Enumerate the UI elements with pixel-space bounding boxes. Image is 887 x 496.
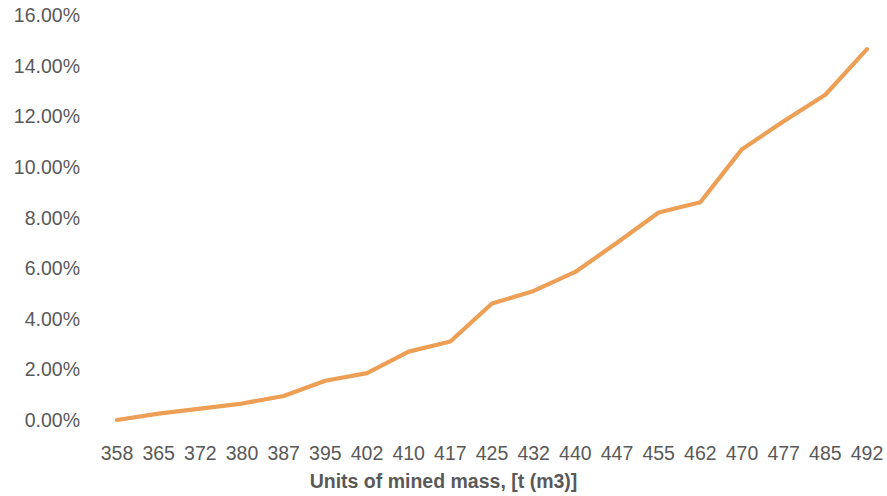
x-axis-tick-label: 410 <box>392 442 425 465</box>
x-axis-tick-label: 462 <box>684 442 717 465</box>
x-axis-tick-label: 380 <box>226 442 259 465</box>
x-axis-tick-label: 477 <box>767 442 800 465</box>
x-axis-tick-label: 455 <box>642 442 675 465</box>
plot-area <box>0 0 887 440</box>
x-axis-title: Units of mined mass, [t (m3)] <box>0 470 887 493</box>
x-axis-tick-label: 358 <box>101 442 134 465</box>
series-line <box>0 0 887 440</box>
x-axis-tick-label: 440 <box>559 442 592 465</box>
x-axis-tick-label: 395 <box>309 442 342 465</box>
x-axis-tick-label: 417 <box>434 442 467 465</box>
x-axis-tick-label: 432 <box>517 442 550 465</box>
x-axis-tick-label: 372 <box>184 442 217 465</box>
line-chart: 16.00%14.00%12.00%10.00%8.00%6.00%4.00%2… <box>0 0 887 496</box>
x-axis-tick-label: 365 <box>142 442 175 465</box>
x-axis-tick-label: 470 <box>726 442 759 465</box>
x-axis-tick-label: 425 <box>476 442 509 465</box>
x-axis-tick-label: 402 <box>351 442 384 465</box>
x-axis-tick-label: 492 <box>851 442 884 465</box>
x-axis-tick-label: 387 <box>267 442 300 465</box>
x-axis-tick-label: 485 <box>809 442 842 465</box>
x-axis-tick-label: 447 <box>601 442 634 465</box>
x-axis: 3583653723803873954024104174254324404474… <box>0 442 887 470</box>
series-polyline <box>117 49 867 420</box>
